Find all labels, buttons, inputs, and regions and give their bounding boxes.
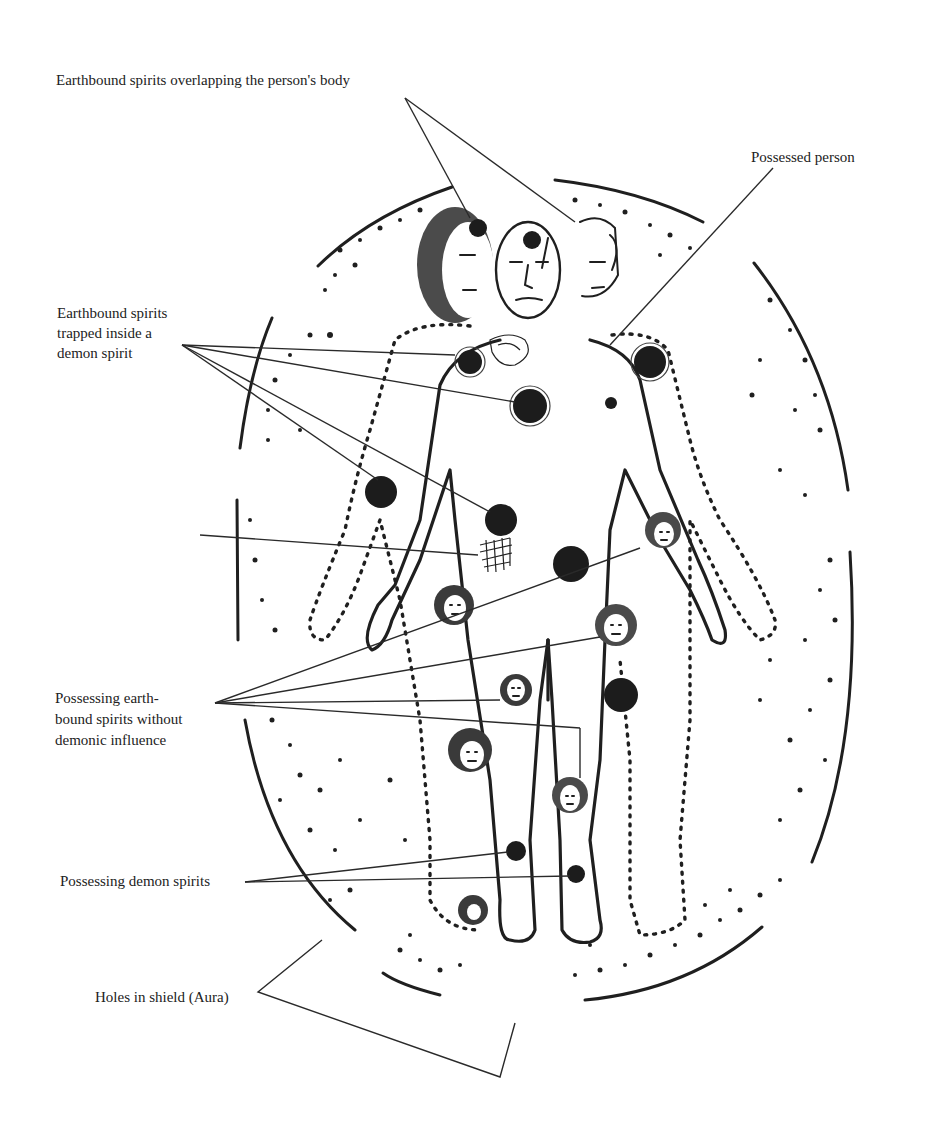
layered-spirits (480, 538, 512, 572)
illustration (0, 0, 926, 1141)
spirit-face (458, 895, 488, 925)
label-holes-in-shield: Holes in shield (Aura) (95, 988, 229, 1007)
label-possessed-person: Possessed person (751, 148, 855, 167)
aura-speckles (248, 198, 838, 978)
label-overlapping-spirits: Earthbound spirits overlapping the perso… (56, 71, 350, 90)
spirit-face (500, 674, 532, 706)
spirit-face (645, 512, 681, 548)
label-trapped-spirits: Earthbound spirits trapped inside a demo… (57, 303, 167, 363)
diagram-canvas: Earthbound spirits overlapping the perso… (0, 0, 926, 1141)
spirit-face (552, 777, 588, 813)
label-demon-spirits: Possessing demon spirits (60, 872, 210, 891)
spirit-face (448, 728, 492, 772)
label-earthbound-spirits: Possessing earth- bound spirits without … (55, 688, 183, 751)
spirit-face (434, 585, 474, 625)
spirit-face (595, 604, 637, 646)
